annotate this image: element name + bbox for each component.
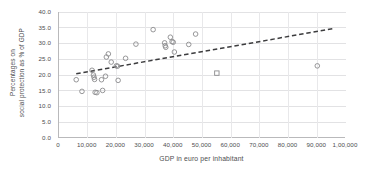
x-tick-label: 70,000	[249, 142, 269, 148]
data-point	[99, 77, 104, 82]
scatter-chart-figure: Percentages on social protection as % of…	[0, 0, 366, 171]
data-point	[80, 89, 85, 94]
x-tick-label: 50,000	[192, 142, 212, 148]
data-point	[74, 77, 79, 82]
data-point	[193, 32, 198, 37]
data-point	[103, 74, 108, 79]
x-axis-tick-labels: 010,00020,00030,00040,00050,00060,00070,…	[0, 139, 366, 153]
y-tick-label: 35.0	[39, 25, 51, 31]
x-tick-label: 60,000	[220, 142, 240, 148]
data-point	[315, 64, 320, 69]
data-point	[123, 56, 128, 61]
x-tick-label: 1,00,000	[333, 142, 358, 148]
x-tick-label: 0	[56, 142, 60, 148]
x-tick-label: 90,000	[307, 142, 327, 148]
data-point	[109, 60, 114, 65]
y-tick-label: 20.0	[39, 72, 51, 78]
data-point	[116, 78, 121, 83]
y-tick-label: 10.0	[39, 103, 51, 109]
data-point	[168, 35, 173, 40]
x-tick-label: 20,000	[106, 142, 126, 148]
data-point-square	[215, 71, 219, 75]
data-point	[186, 42, 191, 47]
data-point	[151, 27, 156, 32]
x-tick-label: 80,000	[278, 142, 298, 148]
x-tick-label: 40,000	[163, 142, 183, 148]
data-point	[134, 42, 139, 47]
x-axis-title: GDP in euro per inhabitant	[58, 155, 345, 163]
data-point	[100, 88, 105, 93]
y-tick-label: 40.0	[39, 9, 51, 15]
y-axis-tick-labels: 0.05.010.015.020.025.030.035.040.0	[28, 0, 55, 150]
x-tick-label: 30,000	[134, 142, 154, 148]
y-tick-label: 25.0	[39, 56, 51, 62]
plot-area	[58, 12, 345, 138]
y-axis-title-line2: social protection as % of GDP	[18, 28, 27, 117]
data-point	[172, 50, 177, 55]
y-tick-label: 5.0	[42, 119, 51, 125]
x-tick-label: 10,000	[77, 142, 97, 148]
data-layer	[59, 12, 346, 138]
y-tick-label: 15.0	[39, 88, 51, 94]
y-tick-label: 30.0	[39, 40, 51, 46]
